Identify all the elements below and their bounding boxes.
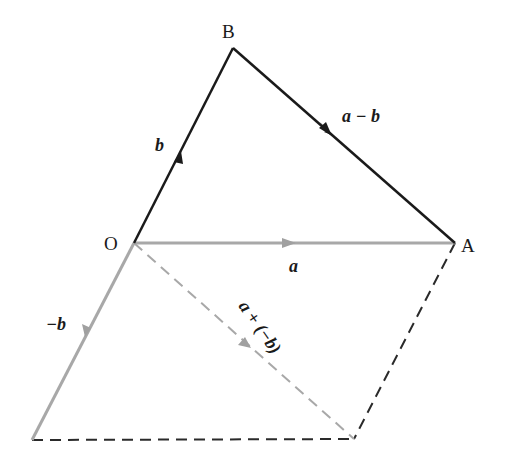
point-label-B: B <box>222 21 235 42</box>
dashed-line-right <box>354 243 455 439</box>
vector-b <box>134 48 233 243</box>
vector-label-neg-b: −b <box>46 314 66 334</box>
vector-label-a: a <box>289 256 298 276</box>
vector-label-a-minus-b: a − b <box>342 106 380 126</box>
arrowhead-a-plus-neg-b-icon <box>238 337 251 348</box>
vector-label-b: b <box>155 135 164 155</box>
vector-a-minus-b <box>233 48 455 243</box>
point-label-O: O <box>104 233 118 254</box>
vector-label-a-plus-neg-b: a + (−b) <box>234 297 286 358</box>
vector-diagram: B O A b a − b a −b a + (−b) <box>0 0 505 475</box>
dashed-line-bottom <box>32 439 354 440</box>
vector-neg-b <box>32 243 134 440</box>
arrowhead-a-icon <box>282 238 296 248</box>
point-label-A: A <box>461 235 475 256</box>
